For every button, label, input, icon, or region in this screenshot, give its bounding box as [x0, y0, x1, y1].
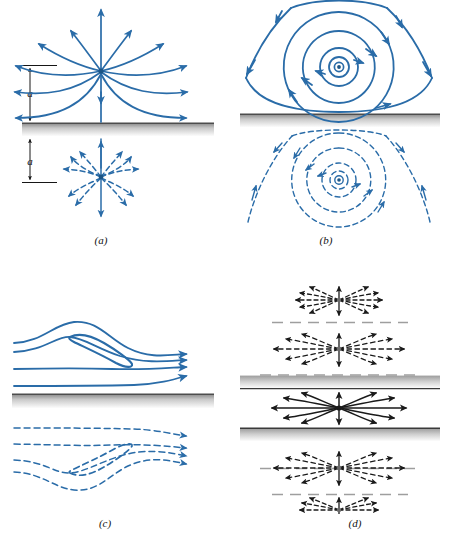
panel-c	[0, 276, 226, 514]
panel-caption-b: (b)	[296, 234, 356, 246]
panel-caption-c: (c)	[75, 517, 135, 529]
figure-root: a a	[0, 0, 452, 543]
halfbody-streamlines-real-c	[14, 322, 186, 386]
panel-a: a a	[0, 0, 226, 232]
wall-plate-b	[240, 114, 440, 127]
vortex-center-real-b	[334, 62, 343, 71]
wall-plate-a	[22, 123, 214, 136]
source-point-image-d-1	[337, 347, 342, 352]
wall-plate-d-lower	[240, 428, 440, 441]
vortex-streamlines-real-b	[246, 1, 432, 122]
wall-plate-c	[12, 394, 214, 408]
wall-plate-d-upper	[240, 376, 440, 389]
panel-b	[226, 0, 452, 232]
dimension-label-a-lower: a	[27, 155, 33, 167]
source-point-image-d-2	[337, 298, 341, 302]
panel-caption-d: (d)	[325, 517, 385, 529]
halfbody-streamlines-image-c	[14, 428, 186, 490]
panel-caption-a: (a)	[71, 234, 131, 246]
panel-d	[226, 276, 452, 514]
vortex-arrowheads-image-b	[252, 143, 426, 212]
source-point-image-a	[99, 175, 104, 180]
vortex-center-image-b	[335, 176, 343, 184]
source-point-image-d-4	[337, 466, 342, 471]
source-point-real-a	[98, 68, 103, 73]
source-point-real-d	[336, 405, 341, 410]
source-point-image-d-5	[337, 508, 341, 512]
